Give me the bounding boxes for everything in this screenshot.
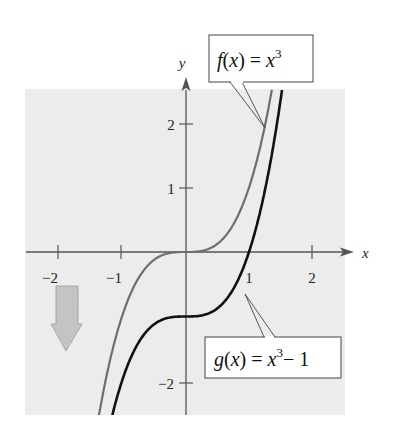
x-tick-label-2: 2 xyxy=(308,270,316,286)
x-tick-label-neg2: −2 xyxy=(42,270,58,286)
g-label: g(x) = x3− 1 xyxy=(214,345,309,371)
f-label: f(x) = x3 xyxy=(217,46,281,72)
y-tick-label-neg2: −2 xyxy=(158,376,174,392)
chart-figure: x −2 −1 1 2 y 2 1 −2 f( xyxy=(0,0,396,428)
y-axis-arrowhead xyxy=(182,77,191,91)
x-tick-label-1: 1 xyxy=(245,270,253,286)
x-axis-label: x xyxy=(361,245,369,261)
x-tick-label-neg1: −1 xyxy=(106,270,122,286)
y-tick-label-2: 2 xyxy=(167,117,175,133)
y-tick-label-1: 1 xyxy=(167,181,175,197)
y-axis-label: y xyxy=(177,55,186,71)
